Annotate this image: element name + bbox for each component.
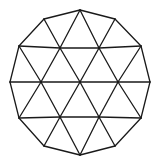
edge-c-LL — [19, 82, 41, 118]
edge-c-f — [41, 82, 60, 117]
edge-d-f — [60, 82, 80, 117]
edge-a-c — [41, 48, 60, 82]
edge-BL-LL — [19, 118, 44, 146]
edge-g-BR — [99, 117, 115, 146]
edge-RU-R — [141, 46, 150, 82]
edge-UR-b — [99, 19, 115, 48]
edge-RL-BR — [115, 118, 141, 146]
edges — [10, 10, 150, 155]
edge-UR-RU — [115, 19, 141, 46]
edge-e-RL — [118, 82, 141, 118]
edge-UL-T — [44, 10, 80, 19]
edge-f-BL — [44, 117, 60, 146]
edge-b-e — [99, 48, 118, 82]
edge-RU-e — [118, 46, 141, 82]
edge-BR-B — [80, 146, 115, 155]
edge-e-g — [99, 82, 118, 117]
edge-T-UR — [80, 10, 115, 19]
edge-d-g — [80, 82, 99, 117]
edge-a-d — [60, 48, 80, 82]
edge-R-RL — [141, 82, 150, 118]
edge-g-B — [80, 117, 99, 155]
edge-B-BL — [44, 146, 80, 155]
edge-LL-f — [19, 117, 60, 118]
edge-b-RU — [99, 46, 141, 48]
edge-LL-L — [10, 82, 19, 118]
edge-L-LU — [10, 46, 19, 82]
edge-f-B — [60, 117, 80, 155]
edge-UL-a — [44, 19, 60, 48]
edge-T-b — [80, 10, 99, 48]
edge-LU-UL — [19, 19, 44, 46]
dodecagon-triangulation-diagram — [0, 0, 165, 162]
edge-T-a — [60, 10, 80, 48]
edge-LU-a — [19, 46, 60, 48]
edge-g-RL — [99, 117, 141, 118]
edge-b-d — [80, 48, 99, 82]
edge-LU-c — [19, 46, 41, 82]
